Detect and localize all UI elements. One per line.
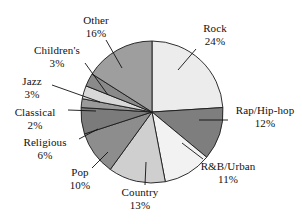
pie-label-childrens-value: 3% — [26, 57, 88, 70]
pie-label-rock-value: 24% — [190, 35, 240, 48]
pie-label-rnb-urban: R&B/Urban 11% — [186, 160, 270, 185]
pie-label-other-name: Other — [68, 14, 124, 27]
pie-label-country: Country 13% — [112, 186, 168, 211]
pie-label-jazz-value: 3% — [12, 88, 52, 101]
pie-slice-rock[interactable] — [152, 41, 223, 112]
pie-label-jazz: Jazz 3% — [12, 75, 52, 100]
pie-label-rap-hip-hop-name: Rap/Hip-hop — [228, 104, 302, 117]
pie-label-pop: Pop 10% — [62, 166, 98, 191]
pie-label-other: Other 16% — [68, 14, 124, 39]
pie-label-pop-name: Pop — [62, 166, 98, 179]
pie-label-religious: Religious 6% — [14, 136, 76, 161]
pie-label-other-value: 16% — [68, 27, 124, 40]
pie-label-country-name: Country — [112, 186, 168, 199]
pie-label-rap-hip-hop-value: 12% — [228, 117, 302, 130]
pie-label-religious-value: 6% — [14, 149, 76, 162]
pie-label-classical: Classical 2% — [4, 106, 66, 131]
pie-label-rock: Rock 24% — [190, 22, 240, 47]
pie-label-classical-name: Classical — [4, 106, 66, 119]
pie-label-country-value: 13% — [112, 199, 168, 212]
pie-label-childrens: Children's 3% — [26, 44, 88, 69]
pie-label-jazz-name: Jazz — [12, 75, 52, 88]
pie-label-religious-name: Religious — [14, 136, 76, 149]
pie-label-classical-value: 2% — [4, 119, 66, 132]
pie-label-rock-name: Rock — [190, 22, 240, 35]
pie-label-rnb-urban-name: R&B/Urban — [186, 160, 270, 173]
pie-label-rnb-urban-value: 11% — [186, 173, 270, 186]
pie-label-pop-value: 10% — [62, 179, 98, 192]
pie-label-rap-hip-hop: Rap/Hip-hop 12% — [228, 104, 302, 129]
pie-label-childrens-name: Children's — [26, 44, 88, 57]
pie-chart-figure: Other 16% Rock 24% Children's 3% Jazz 3%… — [0, 0, 302, 224]
